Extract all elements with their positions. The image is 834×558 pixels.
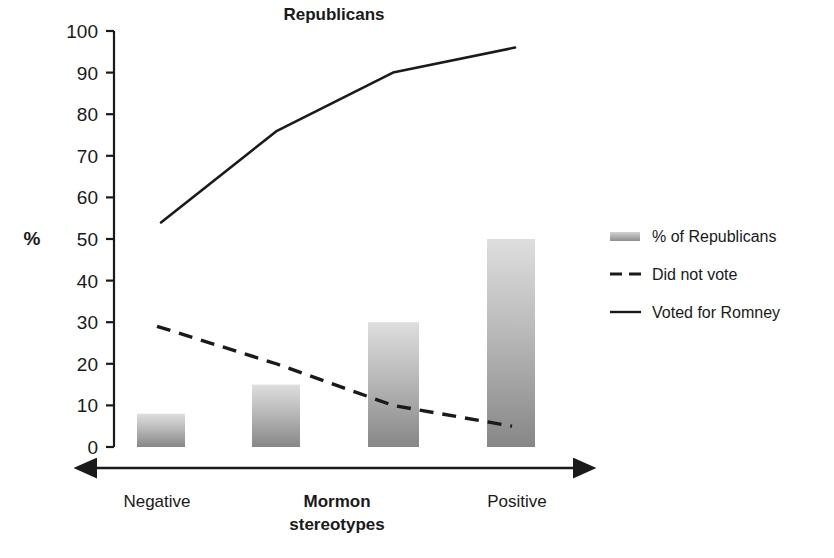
chart-legend: % of Republicans Did not vote Voted for … xyxy=(610,228,780,321)
bar-2 xyxy=(252,385,300,447)
line-voted-for-romney xyxy=(161,48,515,223)
x-axis-title-line2: stereotypes xyxy=(289,515,384,534)
republicans-chart: Republicans % 100 90 80 70 60 50 40 xyxy=(0,0,834,558)
legend-swatch-bar-icon xyxy=(610,232,640,241)
x-axis-label-negative: Negative xyxy=(123,492,190,511)
x-axis-title-line1: Mormon xyxy=(303,492,370,511)
y-tick-label: 40 xyxy=(77,271,98,292)
y-axis-ticks xyxy=(106,31,114,447)
y-tick-label: 80 xyxy=(77,104,98,125)
y-tick-label: 10 xyxy=(77,395,98,416)
legend-label-percent-of-republicans: % of Republicans xyxy=(652,228,777,245)
x-axis-label-positive: Positive xyxy=(487,492,547,511)
y-axis-tick-labels: 100 90 80 70 60 50 40 30 20 10 0 xyxy=(66,21,98,458)
y-tick-label: 50 xyxy=(77,229,98,250)
bar-series-percent-of-republicans xyxy=(137,239,535,447)
y-tick-label: 100 xyxy=(66,21,98,42)
legend-label-did-not-vote: Did not vote xyxy=(652,266,737,283)
bar-negative xyxy=(137,414,185,447)
line-did-not-vote xyxy=(157,326,512,426)
bar-3 xyxy=(368,322,419,447)
y-axis-label: % xyxy=(24,228,41,249)
legend-label-voted-for-romney: Voted for Romney xyxy=(652,304,780,321)
y-tick-label: 60 xyxy=(77,187,98,208)
chart-container: Republicans % 100 90 80 70 60 50 40 xyxy=(0,0,834,558)
y-tick-label: 90 xyxy=(77,63,98,84)
y-tick-label: 30 xyxy=(77,312,98,333)
y-tick-label: 0 xyxy=(87,437,98,458)
y-tick-label: 20 xyxy=(77,354,98,375)
bar-positive xyxy=(487,239,535,447)
chart-title: Republicans xyxy=(283,5,384,24)
y-tick-label: 70 xyxy=(77,146,98,167)
